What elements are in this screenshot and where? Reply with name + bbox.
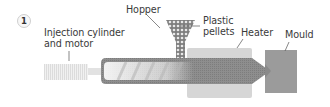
label-injection-line2: and motor	[44, 38, 125, 49]
label-plastic-pellets: Plastic pellets	[203, 15, 234, 37]
label-pellets-line1: Plastic	[203, 15, 234, 26]
label-injection-line1: Injection cylinder	[44, 27, 125, 38]
machine-illustration	[0, 0, 330, 107]
label-injection-cylinder: Injection cylinder and motor	[44, 27, 125, 49]
label-heater: Heater	[241, 27, 273, 38]
label-hopper: Hopper	[126, 4, 161, 15]
leader-hopper	[146, 14, 160, 28]
label-pellets-line2: pellets	[203, 26, 234, 37]
screw	[104, 62, 194, 80]
leader-heater	[237, 39, 243, 48]
motor-shaft	[88, 68, 102, 75]
label-mould: Mould	[285, 29, 313, 40]
leader-mould	[285, 42, 289, 51]
injection-moulding-diagram: 1	[0, 0, 330, 107]
motor-block	[44, 64, 88, 80]
